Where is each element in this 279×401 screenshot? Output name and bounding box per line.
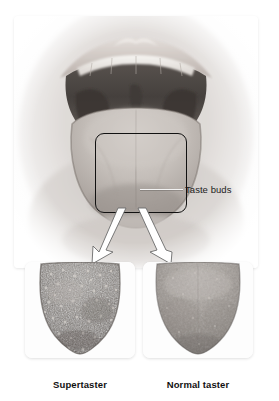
callout-arrows	[80, 206, 200, 268]
arrow-to-normal-taster	[138, 208, 172, 264]
normal-taster-tongue-closeup	[143, 262, 253, 358]
panel-normal-taster	[143, 262, 253, 358]
taste-buds-leader-line	[140, 189, 183, 190]
taste-buds-label: Taste buds	[185, 183, 231, 196]
taste-buds-figure: Taste buds	[0, 0, 279, 401]
supertaster-tongue-closeup	[25, 262, 135, 358]
arrow-to-supertaster	[92, 208, 126, 264]
caption-supertaster: Supertaster	[25, 379, 135, 390]
panel-supertaster	[25, 262, 135, 358]
caption-normal-taster: Normal taster	[143, 379, 253, 390]
